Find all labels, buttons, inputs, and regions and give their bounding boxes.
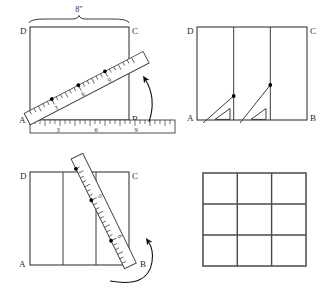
- figure-root: 8" D C A B: [0, 0, 326, 289]
- square-outline-top-right: [197, 27, 307, 120]
- corner-label-B2: B: [310, 113, 316, 123]
- panel-bottom-left: D C A B 9 6: [19, 153, 153, 282]
- set-square-2: [251, 109, 266, 120]
- panel-top-left: 8" D C A B: [19, 5, 175, 133]
- corner-label-C2: C: [310, 26, 316, 36]
- corner-label-A3: A: [19, 259, 26, 269]
- corner-label-D: D: [20, 26, 27, 36]
- dimension-brace: [29, 16, 129, 24]
- hruler-mark-3: 3: [56, 126, 59, 133]
- corner-label-D2: D: [187, 26, 194, 36]
- rotation-arrow-top-left: [145, 79, 152, 122]
- corner-label-C3: C: [132, 171, 138, 181]
- diagonal-ruler-top-left: 3 6 9: [23, 50, 149, 125]
- figure-svg: 8" D C A B: [0, 0, 326, 289]
- corner-label-D3: D: [20, 171, 27, 181]
- intersection-dot-1: [232, 94, 236, 98]
- hruler-mark-9: 9: [134, 126, 137, 133]
- corner-label-A: A: [19, 115, 26, 125]
- corner-label-B3: B: [140, 259, 146, 269]
- panel-bottom-right: [203, 173, 306, 266]
- panel-top-right: D C A B: [187, 26, 316, 123]
- corner-label-C: C: [132, 26, 138, 36]
- dimension-label-8in: 8": [75, 5, 82, 14]
- intersection-dot-2: [268, 83, 272, 87]
- diagonal-ruler-bottom-left: 9 6: [69, 153, 136, 269]
- grid-outline: [203, 173, 306, 266]
- corner-label-A2: A: [187, 113, 194, 123]
- horizontal-ruler: 3 6 9: [30, 120, 175, 133]
